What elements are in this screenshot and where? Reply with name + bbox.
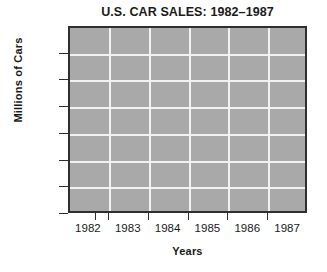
x-tick-mark <box>108 213 109 220</box>
y-tick-mark <box>59 213 68 214</box>
x-tick-label: 1987 <box>264 222 310 234</box>
y-tick-mark <box>59 79 68 80</box>
gridline-vertical <box>109 28 111 211</box>
x-tick-mark <box>148 213 149 220</box>
y-tick-mark <box>59 133 68 134</box>
gridline-vertical <box>268 28 270 211</box>
x-tick-mark <box>227 213 228 220</box>
chart-figure: U.S. CAR SALES: 1982–1987 Millions of Ca… <box>0 0 327 272</box>
gridlines <box>70 28 305 211</box>
y-tick-mark <box>59 106 68 107</box>
x-axis-title: Years <box>68 245 307 257</box>
y-tick-mark <box>59 160 68 161</box>
y-tick-mark <box>59 53 68 54</box>
gridline-vertical <box>189 28 191 211</box>
plot-area <box>68 26 307 213</box>
chart-title: U.S. CAR SALES: 1982–1987 <box>68 5 307 20</box>
y-axis-title: Millions of Cars <box>12 10 24 150</box>
y-tick-mark <box>59 186 68 187</box>
x-tick-mark <box>188 213 189 220</box>
gridline-vertical <box>228 28 230 211</box>
gridline-vertical <box>149 28 151 211</box>
x-tick-mark <box>95 213 96 220</box>
x-tick-mark <box>267 213 268 220</box>
